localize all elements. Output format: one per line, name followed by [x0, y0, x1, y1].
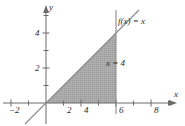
x-tick-label-6: 6 — [119, 106, 124, 115]
x-tick-label-2: 2 — [67, 106, 72, 115]
boundary-equation-label: x = 4 — [106, 59, 125, 68]
y-tick-label-4: 4 — [35, 29, 40, 38]
y-axis-label: y — [49, 3, 53, 12]
graph-figure: −2 2 4 6 8 2 4 x y f(x) = x x = 4 — [0, 0, 185, 126]
x-tick-label-8: 8 — [154, 106, 159, 115]
x-axis-label: x — [174, 90, 178, 99]
y-tick-label-2: 2 — [35, 64, 40, 73]
y-axis — [43, 5, 49, 124]
x-tick-label-4: 4 — [84, 106, 89, 115]
function-equation-label: f(x) = x — [118, 17, 145, 26]
x-tick-label-neg2: −2 — [9, 106, 20, 115]
